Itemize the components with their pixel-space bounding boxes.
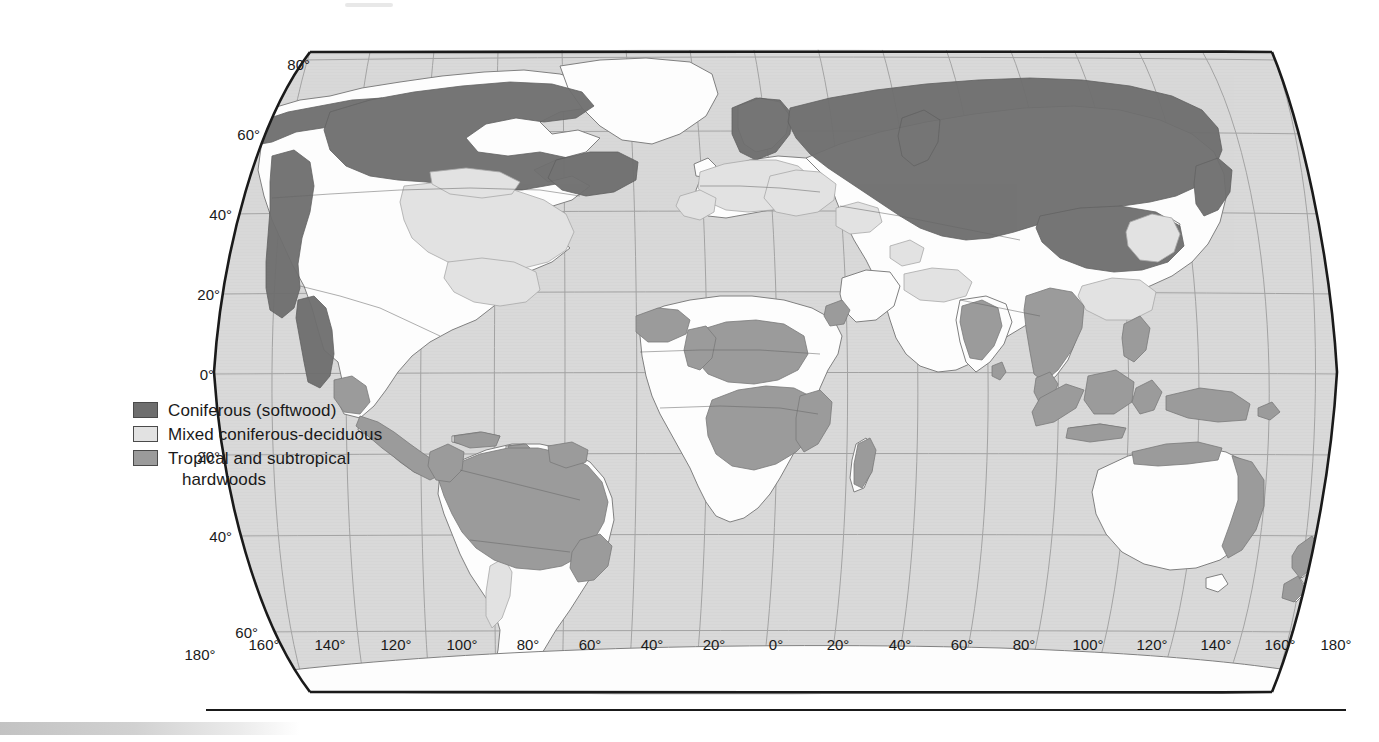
legend-swatch-tropical: [133, 450, 158, 466]
map-legend: Coniferous (softwood) Mixed coniferous-d…: [133, 400, 433, 493]
lat-label: 40°: [209, 528, 232, 545]
lat-label: 40°: [209, 206, 232, 223]
lon-label: 40°: [889, 636, 912, 653]
lat-label: 60°: [237, 126, 260, 143]
lon-label: 20°: [827, 636, 850, 653]
legend-label-mixed: Mixed coniferous-deciduous: [168, 424, 382, 445]
legend-item-coniferous: Coniferous (softwood): [133, 400, 433, 421]
lon-label: 80°: [1013, 636, 1036, 653]
legend-swatch-mixed: [133, 426, 158, 442]
lon-label: 100°: [446, 636, 477, 653]
lon-label: 0°: [769, 636, 783, 653]
legend-item-mixed: Mixed coniferous-deciduous: [133, 424, 433, 445]
lon-label: 20°: [703, 636, 726, 653]
legend-label-tropical-line2: hardwoods: [168, 469, 350, 490]
lon-label: 60°: [951, 636, 974, 653]
scan-artifact-bar: [0, 722, 300, 735]
lat-label: 0°: [200, 366, 214, 383]
world-forest-resources-map: 80° 60° 40° 20° 0° 20° 40° 60° 180° 160°…: [0, 0, 1379, 742]
lon-label: 160°: [1264, 636, 1295, 653]
lon-label: 160°: [248, 636, 279, 653]
scan-artifact-speck: [345, 3, 393, 7]
lon-label: 140°: [314, 636, 345, 653]
lat-label: 80°: [287, 56, 310, 73]
lon-label: 120°: [1136, 636, 1167, 653]
lat-label: 20°: [197, 286, 220, 303]
lon-label: 180°: [184, 646, 215, 663]
legend-swatch-coniferous: [133, 402, 158, 418]
lon-label: 180°: [1320, 636, 1351, 653]
legend-label-coniferous: Coniferous (softwood): [168, 400, 336, 421]
legend-label-tropical-line1: Tropical and subtropical: [168, 449, 350, 468]
lon-label: 100°: [1072, 636, 1103, 653]
lon-label: 140°: [1200, 636, 1231, 653]
lon-label: 120°: [380, 636, 411, 653]
legend-label-tropical: Tropical and subtropical hardwoods: [168, 448, 350, 490]
legend-item-tropical: Tropical and subtropical hardwoods: [133, 448, 433, 490]
lon-label: 80°: [517, 636, 540, 653]
lon-label: 60°: [579, 636, 602, 653]
lon-label: 40°: [641, 636, 664, 653]
map-canvas: 80° 60° 40° 20° 0° 20° 40° 60° 180° 160°…: [0, 0, 1379, 742]
